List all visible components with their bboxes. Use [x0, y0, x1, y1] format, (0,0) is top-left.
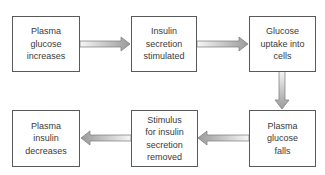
- arrow-right-icon: [197, 37, 248, 51]
- node-label-line: increases: [27, 50, 66, 63]
- node-label-line: Plasma: [27, 25, 66, 38]
- node-label-line: glucose: [267, 132, 298, 145]
- arrow-left-icon: [81, 131, 131, 145]
- node-label-line: secretion: [143, 38, 184, 51]
- arrow-down-icon: [275, 71, 289, 109]
- node-label-line: Plasma: [25, 120, 67, 133]
- node-plasma-insulin-decreases: Plasma insulin decreases: [12, 110, 80, 167]
- node-label-line: cells: [260, 50, 304, 63]
- arrow-right-icon: [80, 37, 130, 51]
- arrow-left-icon: [198, 131, 249, 145]
- node-plasma-glucose-increases: Plasma glucose increases: [12, 16, 80, 72]
- node-label-line: glucose: [27, 38, 66, 51]
- node-plasma-glucose-falls: Plasma glucose falls: [249, 110, 316, 167]
- node-label-line: Insulin: [143, 25, 184, 38]
- node-label-line: falls: [267, 145, 298, 158]
- node-label-line: Stimulus: [145, 114, 184, 127]
- node-label-line: Glucose: [260, 25, 304, 38]
- node-label-line: insulin: [25, 132, 67, 145]
- node-glucose-uptake-into-cells: Glucose uptake into cells: [249, 16, 316, 72]
- node-stimulus-for-insulin-secretion-removed: Stimulus for insulin secretion removed: [131, 110, 198, 167]
- node-label-line: for insulin: [145, 126, 184, 139]
- node-label-line: uptake into: [260, 38, 304, 51]
- node-label-line: removed: [145, 151, 184, 164]
- node-label-line: stimulated: [143, 50, 184, 63]
- node-label-line: Plasma: [267, 120, 298, 133]
- node-label-line: secretion: [145, 139, 184, 152]
- node-insulin-secretion-stimulated: Insulin secretion stimulated: [131, 16, 197, 72]
- node-label-line: decreases: [25, 145, 67, 158]
